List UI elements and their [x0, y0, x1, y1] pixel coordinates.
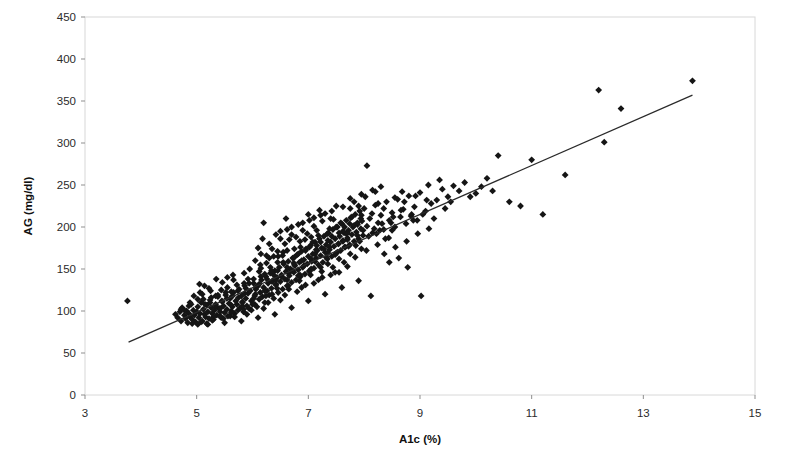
y-tick-label: 50	[63, 347, 76, 359]
y-tick-label: 150	[57, 263, 76, 275]
y-tick-label: 300	[57, 137, 76, 149]
y-tick-label: 0	[70, 389, 76, 401]
x-tick-label: 3	[82, 407, 88, 419]
x-tick-label: 11	[526, 407, 538, 419]
y-tick-label: 200	[57, 221, 76, 233]
y-tick-label: 100	[57, 305, 76, 317]
y-tick-label: 450	[57, 11, 76, 23]
x-tick-label: 13	[637, 407, 650, 419]
figure-background	[0, 0, 800, 459]
scatter-plot-figure: 050100150200250300350400450 3579111315 A…	[0, 0, 800, 459]
x-tick-label: 9	[417, 407, 423, 419]
y-tick-label: 250	[57, 179, 76, 191]
y-tick-label: 400	[57, 53, 76, 65]
y-axis-title: AG (mg/dl)	[22, 176, 34, 235]
x-axis-title: A1c (%)	[399, 433, 441, 445]
chart-canvas: 050100150200250300350400450 3579111315 A…	[0, 0, 800, 459]
y-tick-label: 350	[57, 95, 76, 107]
x-tick-label: 7	[305, 407, 311, 419]
x-tick-label: 15	[749, 407, 762, 419]
x-tick-label: 5	[193, 407, 199, 419]
